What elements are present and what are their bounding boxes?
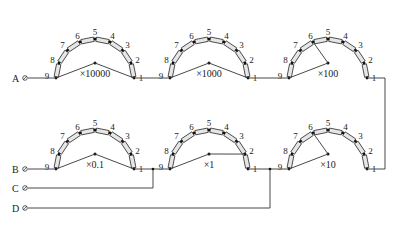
wires-layer [28,78,385,208]
tap-node [66,140,69,143]
resistor [121,50,132,63]
multiplier-label: ×10 [320,159,336,170]
tap-label: 5 [207,118,212,128]
tap-node [66,49,69,52]
tap-label: 7 [60,131,65,141]
tap-label: 4 [224,31,229,41]
tap-label: 7 [293,40,298,50]
resistor [329,37,342,44]
resistor [354,141,365,154]
resistor [54,155,61,168]
resistor [172,141,183,154]
resistor [314,37,327,44]
tap-label: 9 [45,71,50,81]
tap-label: 8 [283,55,288,65]
tap-label: 3 [239,40,244,50]
multiplier-label: ×10000 [80,68,111,79]
resistor [287,64,294,77]
tap-node [172,153,175,156]
tap-node [58,153,61,156]
multiplier-label: ×100 [318,68,339,79]
tap-label: 2 [249,146,254,156]
tap-label: 6 [75,122,80,132]
terminal-d[interactable]: D [12,203,27,214]
tap-node [299,49,302,52]
resistor [81,37,94,44]
dial-x10[interactable]: 123456789×10 [278,118,377,174]
resistor [81,128,94,135]
tap-label: 8 [50,55,55,65]
resistor [300,41,313,52]
tap-label: 7 [174,40,179,50]
tap-label: 3 [125,40,130,50]
terminal-label: D [12,203,19,214]
tap-label: 6 [308,122,313,132]
resistor [235,141,246,154]
resistor [210,128,223,135]
terminal-c[interactable]: C [12,183,27,194]
tap-node [172,62,175,65]
resistor [96,128,109,135]
tap-label: 3 [125,131,130,141]
tap-node [354,140,357,143]
tap-label: 3 [239,131,244,141]
resistor [129,155,136,168]
tap-label: 2 [368,146,373,156]
tap-node [94,129,97,132]
tap-node [363,62,366,65]
resistor [58,50,69,63]
tap-label: 9 [159,162,164,172]
dial-x1[interactable]: 123456789×1 [159,118,258,174]
tap-label: 3 [358,131,363,141]
multiplier-label: ×0.1 [86,159,104,170]
resistor [362,64,369,77]
resistor [195,128,208,135]
tap-label: 4 [110,31,115,41]
terminal-a[interactable]: A [12,73,27,84]
tap-node [223,132,226,135]
tap-node [342,132,345,135]
tap-node [291,62,294,65]
dials-layer: 123456789×10000123456789×1000123456789×1… [45,27,377,174]
tap-node [79,132,82,135]
resistor [210,37,223,44]
dial-x100[interactable]: 123456789×100 [278,27,377,83]
junction-d [269,168,272,171]
tap-node [180,49,183,52]
resistor [67,41,80,52]
resistor [243,64,250,77]
dial-x10000[interactable]: 123456789×10000 [45,27,144,83]
tap-node [79,41,82,44]
resistor [58,141,69,154]
resistor [181,41,194,52]
tap-label: 8 [164,55,169,65]
tap-label: 6 [189,122,194,132]
tap-node [235,140,238,143]
resistor [181,132,194,143]
tap-node [121,140,124,143]
tap-node [208,38,211,41]
terminal-label: C [12,183,19,194]
dial-x1000[interactable]: 123456789×1000 [159,27,258,83]
tap-label: 4 [110,122,115,132]
resistor [67,132,80,143]
resistor [110,132,123,143]
tap-label: 8 [283,146,288,156]
tap-node [130,153,133,156]
resistor [96,37,109,44]
dial-x0.1[interactable]: 123456789×0.1 [45,118,144,174]
wiper-arm[interactable] [313,42,328,63]
wiper-arm[interactable] [313,133,328,154]
tap-label: 5 [326,118,331,128]
terminal-label: A [12,73,20,84]
tap-node [299,140,302,143]
tap-node [363,153,366,156]
tap-node [193,132,196,135]
resistor [168,155,175,168]
resistor [121,141,132,154]
terminal-b[interactable]: B [12,164,27,175]
resistor [243,155,250,168]
tap-node [223,41,226,44]
resistor [110,41,123,52]
tap-node [193,41,196,44]
